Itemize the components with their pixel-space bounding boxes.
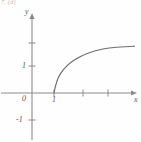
graph-figure: 7. (d) y x 0 1 -1 1 bbox=[0, 0, 141, 142]
origin-label: 0 bbox=[22, 95, 26, 103]
y-tick-label-1: 1 bbox=[22, 62, 26, 70]
x-tick-label-1: 1 bbox=[52, 96, 56, 104]
y-axis-arrowhead bbox=[29, 13, 34, 19]
x-axis-label: x bbox=[134, 96, 138, 104]
log-curve bbox=[54, 46, 135, 93]
y-axis-label: y bbox=[25, 8, 29, 16]
y-tick-label-minus-1: -1 bbox=[16, 116, 23, 124]
